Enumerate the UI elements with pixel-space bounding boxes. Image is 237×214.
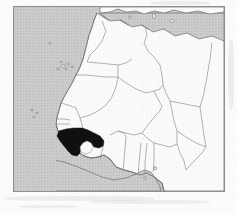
scan-artifact — [150, 1, 210, 5]
scan-artifact — [4, 196, 154, 201]
scan-artifact — [18, 205, 78, 208]
scan-artifact — [228, 40, 234, 110]
map-graphic — [14, 7, 224, 191]
balearic-island — [128, 16, 131, 18]
cape-verde-island — [36, 112, 38, 113]
sardinia-island — [152, 14, 155, 19]
canary-island — [60, 61, 62, 62]
locator-map-figure — [0, 0, 237, 214]
canary-island — [65, 68, 68, 70]
cape-verde-island — [33, 116, 35, 117]
canary-island — [61, 65, 65, 67]
sicily-island — [170, 20, 175, 23]
canary-island — [66, 63, 69, 65]
cape-verde-island — [31, 109, 34, 111]
saotome-island — [144, 177, 146, 179]
scan-artifact — [90, 200, 210, 204]
canary-island — [57, 68, 60, 70]
map-frame — [13, 6, 225, 192]
madeira-island — [49, 42, 51, 43]
bioko-island — [154, 167, 157, 170]
canary-island — [71, 66, 73, 68]
